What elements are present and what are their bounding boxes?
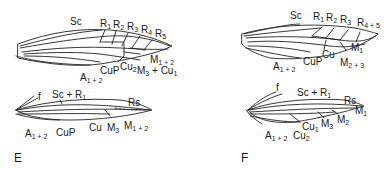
label-sc-r1: Sc + R1 <box>52 90 86 103</box>
label-r3: R3 <box>127 22 138 35</box>
label-f: f <box>276 83 279 93</box>
label-f: f <box>38 92 41 102</box>
label-m2: M2 <box>337 115 349 128</box>
label-cup: CuP <box>100 66 119 76</box>
label-sc: Sc <box>70 17 82 27</box>
label-cup: CuP <box>56 128 75 138</box>
label-cu2: Cu2 <box>293 131 310 144</box>
label-r2: R2 <box>326 13 337 26</box>
label-m3: M3 <box>321 119 333 132</box>
label-r4: R4 <box>141 25 152 38</box>
label-cu2: Cu2 <box>120 62 137 75</box>
label-m3-cu1: M3 + Cu1 <box>137 66 177 79</box>
label-m1: M1 <box>351 43 363 56</box>
label-a12: A1 + 2 <box>265 131 287 144</box>
label-r3: R3 <box>340 15 351 28</box>
label-a12: A1 + 2 <box>80 73 102 86</box>
label-m1: M1 <box>355 106 367 119</box>
label-sc: Sc <box>290 11 302 21</box>
label-r2: R2 <box>113 20 124 33</box>
label-cu: Cu <box>89 123 102 133</box>
label-a12: A1 + 2 <box>273 62 295 75</box>
label-cup: CuP <box>303 57 322 67</box>
label-a12: A1 + 2 <box>25 129 47 142</box>
label-m12: M1 + 2 <box>124 121 148 134</box>
label-m23: M2 + 3 <box>340 58 364 71</box>
label-r45: R4 + 5 <box>357 18 380 31</box>
label-r5: R5 <box>155 29 166 42</box>
label-m3: M3 <box>107 123 119 136</box>
label-sc-r1: Sc + R1 <box>297 88 331 101</box>
label-r1: R1 <box>100 19 111 32</box>
panel-label-f: F <box>241 152 248 164</box>
label-rs: Rs <box>128 98 140 108</box>
panel-label-e: E <box>14 152 22 164</box>
label-cu: Cu <box>322 50 335 60</box>
label-r1: R1 <box>313 12 324 25</box>
